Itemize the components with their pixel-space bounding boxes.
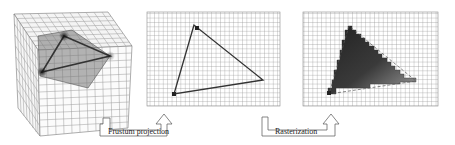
raster-grid-panel	[303, 12, 438, 106]
frustum-cube	[14, 12, 132, 136]
diagram-canvas	[0, 0, 455, 145]
vertex-marker	[172, 92, 176, 96]
rasterization-label: Rasterization	[275, 127, 317, 137]
vertex-marker	[195, 26, 199, 30]
projection-grid-panel	[147, 12, 280, 106]
frustum-projection-label: Frustum projection	[108, 127, 169, 137]
